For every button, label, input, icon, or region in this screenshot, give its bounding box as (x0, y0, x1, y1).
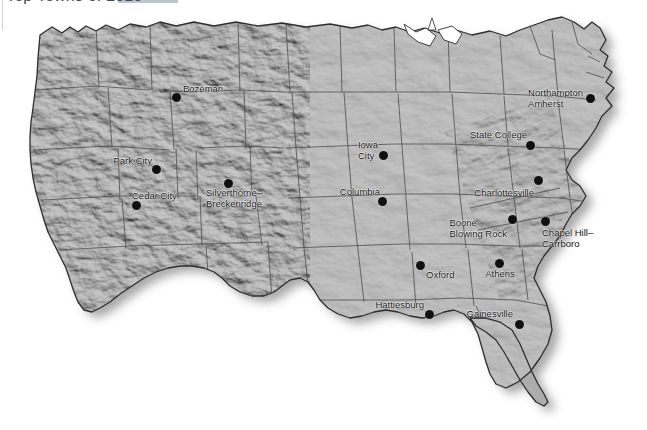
city-dot-hattiesburg[interactable] (425, 310, 434, 319)
city-label-boone-blowing-rock: Boone Blowing Rock (449, 218, 507, 239)
city-dot-bozeman[interactable] (172, 93, 181, 102)
city-dot-northampton-amherst[interactable] (586, 94, 595, 103)
city-dot-state-college[interactable] (526, 141, 535, 150)
city-dot-boone-blowing-rock[interactable] (508, 215, 517, 224)
header-divider (2, 0, 3, 30)
city-label-athens: Athens (485, 269, 515, 280)
city-label-gainesville: Gainesville (467, 309, 513, 320)
city-dot-chapel-hill-carrboro[interactable] (541, 217, 550, 226)
map-screenshot: Top Towns of 2010 (0, 0, 647, 430)
city-dot-cedar-city[interactable] (132, 201, 141, 210)
city-label-cedar-city: Cedar City (132, 191, 177, 202)
city-label-bozeman: Bozeman (183, 84, 223, 95)
city-dot-park-city[interactable] (152, 165, 161, 174)
city-dot-athens[interactable] (495, 259, 504, 268)
city-label-hattiesburg: Hattiesburg (375, 300, 424, 311)
city-dot-charlottesville[interactable] (534, 176, 543, 185)
city-label-oxford: Oxford (426, 270, 455, 281)
city-markers-layer: BozemanPark CityCedar CitySilverthorne– … (0, 0, 647, 430)
city-dot-gainesville[interactable] (515, 320, 524, 329)
city-dot-oxford[interactable] (416, 261, 425, 270)
city-label-state-college: State College (470, 130, 527, 141)
city-label-park-city: Park City (113, 156, 152, 167)
city-label-northampton-amherst: Northampton Amherst (528, 88, 583, 109)
city-label-silverthorne-breckenridge: Silverthorne– Breckenridge (206, 188, 262, 209)
city-label-columbia: Columbia (340, 187, 380, 198)
city-label-chapel-hill-carrboro: Chapel Hill– Carrboro (542, 228, 593, 249)
city-label-iowa-city: Iowa City (358, 140, 378, 161)
city-dot-iowa-city[interactable] (379, 151, 388, 160)
city-label-charlottesville: Charlottesville (474, 188, 534, 199)
city-dot-columbia[interactable] (378, 197, 387, 206)
